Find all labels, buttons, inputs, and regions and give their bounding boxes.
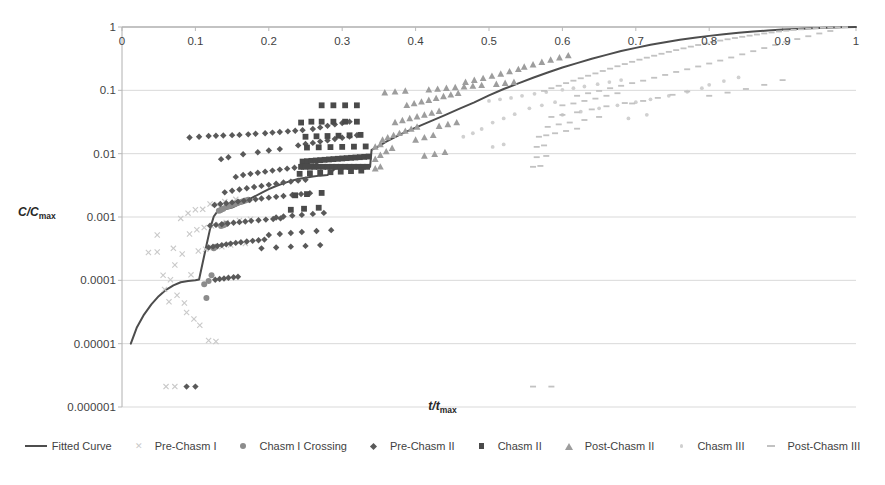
y-axis-title-sub: max [39,211,56,221]
line-glyph [25,440,47,452]
legend-label: Fitted Curve [52,441,112,452]
x-tick-label: 0.4 [408,35,424,47]
x-axis-title-sub: max [440,405,457,415]
legend-item-post-chasm-ii[interactable]: Post-Chasm II [558,440,655,452]
legend-label: Post-Chasm II [585,441,655,452]
legend-item-pre-chasm-ii[interactable]: Pre-Chasm II [363,440,455,452]
x-axis-title: t/tmax [0,399,885,415]
x-tick-label: 0.9 [775,35,791,47]
x-tick-label: 0 [119,35,125,47]
legend-label: Chasm II [498,441,542,452]
legend-label: Chasm I Crossing [259,441,346,452]
diamond-marker-icon [363,440,385,452]
legend-item-pre-chasm-i[interactable]: ✕Pre-Chasm I [128,440,217,452]
circle-marker-icon [232,440,254,452]
square-marker-icon-shape [479,443,485,449]
triangle-marker-icon-shape [565,443,573,450]
legend-item-chasm-ii[interactable]: Chasm II [471,440,542,452]
x-tick-label: 0.1 [187,35,203,47]
diamond-marker-icon-shape [370,442,377,449]
x-tick-label: 0.3 [334,35,350,47]
x-tick-label: 0.6 [554,35,570,47]
triangle-marker-icon [558,440,580,452]
legend-item-chasm-i-crossing[interactable]: Chasm I Crossing [232,440,346,452]
circle-marker-icon-shape [240,443,246,449]
line-glyph-shape [25,445,47,448]
x-marker-icon: ✕ [128,440,150,452]
x-tick-label: 0.5 [481,35,497,47]
dash-marker-icon [760,440,782,452]
square-marker-icon [471,440,493,452]
legend-label: Pre-Chasm II [390,441,455,452]
x-marker-icon-shape: ✕ [135,442,143,451]
x-tick-label: 1 [853,35,859,47]
x-tick-label: 0.7 [628,35,644,47]
chart-root: 10.10.010.0010.00010.000010.000001 00.10… [0,0,885,485]
legend-label: Post-Chasm III [787,441,860,452]
x-tick-label: 0.2 [261,35,277,47]
dot-marker-icon [670,440,692,452]
legend-item-post-chasm-iii[interactable]: Post-Chasm III [760,440,860,452]
legend-label: Pre-Chasm I [155,441,217,452]
x-axis-title-main: t/t [428,399,439,413]
y-axis-title: C/Cmax [18,205,56,221]
legend-label: Chasm III [697,441,744,452]
y-axis-title-main: C/C [18,205,39,219]
chart-legend: Fitted Curve✕Pre-Chasm IChasm I Crossing… [0,440,885,452]
legend-item-fitted-curve[interactable]: Fitted Curve [25,440,112,452]
dot-marker-icon-shape [680,444,684,448]
legend-item-chasm-iii[interactable]: Chasm III [670,440,744,452]
dash-marker-icon-shape [767,445,775,447]
x-tick-label: 0.8 [701,35,717,47]
